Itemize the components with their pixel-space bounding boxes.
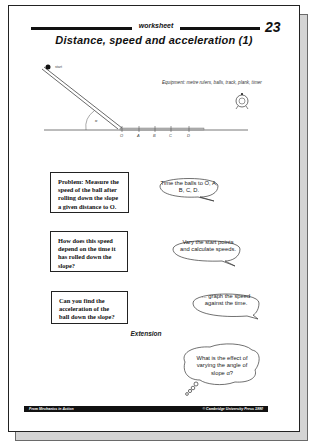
footer-bar: From Mechanics in Action © Cambridge Uni… (24, 406, 268, 412)
bubble-text-2: Vary the start points and calculate spee… (178, 239, 238, 254)
footer-source: From Mechanics in Action (29, 407, 74, 411)
footer-copyright: © Cambridge University Press 1990 (202, 407, 263, 411)
extension-heading: Extension (0, 330, 292, 337)
bubble-text-1: Time the balls to O, A, B, C, D. (160, 180, 218, 195)
speech-bubbles (0, 0, 313, 445)
bubble-text-3: ... graph the speed against the time. (195, 293, 257, 308)
thought-text: What is the effect of varying the angle … (190, 355, 254, 377)
